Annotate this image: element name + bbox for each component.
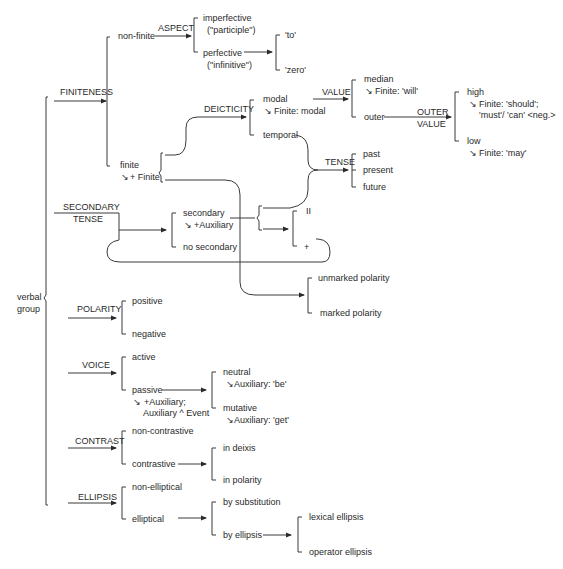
feature-secondary: secondary <box>183 208 225 218</box>
secondary-realization-arrow: ↘ <box>184 220 192 230</box>
perfective-bracket <box>276 35 280 70</box>
system-secondary-tense-1: SECONDARY <box>63 202 120 212</box>
feature-no-secondary: no secondary <box>183 242 238 252</box>
root-brace <box>44 97 48 505</box>
feature-in-polarity: in polarity <box>223 475 262 485</box>
feature-contrastive: contrastive <box>132 459 176 469</box>
feature-positive: positive <box>132 296 163 306</box>
finite-realization: + Finite <box>130 172 160 182</box>
feature-non-contrastive: non-contrastive <box>132 426 194 436</box>
neutral-realization: Auxiliary: 'be' <box>234 379 287 389</box>
system-contrast: CONTRAST <box>75 436 125 446</box>
feature-high: high <box>467 87 484 97</box>
median-realization-arrow: ↘ <box>365 86 373 96</box>
mutative-realization-arrow: ↘ <box>226 415 234 425</box>
system-voice: VOICE <box>82 360 110 370</box>
feature-recursion-plus: + <box>304 242 309 252</box>
voice-bracket <box>122 357 126 390</box>
feature-by-ellipsis: by ellipsis <box>223 530 263 540</box>
feature-neutral: neutral <box>223 367 251 377</box>
feature-active: active <box>132 352 156 362</box>
system-outer-value-2: VALUE <box>417 119 446 129</box>
system-network-diagram: verbal group FINITENESS non-finite finit… <box>0 0 563 569</box>
feature-non-elliptical: non-elliptical <box>132 482 182 492</box>
finite-to-polarity-curve <box>165 180 304 295</box>
high-realization-2: 'must'/ 'can' <neg.> <box>479 110 555 120</box>
system-value: VALUE <box>322 87 351 97</box>
recursion-bracket <box>293 211 297 246</box>
secondary-tense-bracket <box>172 213 176 247</box>
finite-realization-arrow: ↘ <box>121 172 129 182</box>
feature-by-substitution: by substitution <box>223 497 281 507</box>
aspect-bracket <box>194 18 198 52</box>
root-label-group: group <box>17 304 40 314</box>
elliptical-bracket <box>212 502 216 535</box>
passive-realization-1: +Auxiliary; <box>144 397 186 407</box>
feature-recursion-ii: II <box>306 206 311 216</box>
feature-zero: 'zero' <box>285 65 306 75</box>
feature-past: past <box>363 149 381 159</box>
low-realization: Finite: 'may' <box>479 148 527 158</box>
feature-perfective-gloss: ("infinitive") <box>207 60 252 70</box>
feature-mutative: mutative <box>223 403 257 413</box>
feature-in-deixis: in deixis <box>223 443 256 453</box>
outer-value-bracket <box>455 92 459 141</box>
feature-median: median <box>364 74 394 84</box>
passive-realization-2: Auxiliary ^ Event <box>143 408 210 418</box>
feature-future: future <box>363 182 386 192</box>
feature-non-finite: non-finite <box>118 31 155 41</box>
finite-polarity-bracket <box>308 278 312 313</box>
feature-low: low <box>467 136 481 146</box>
feature-perfective: perfective <box>203 48 242 58</box>
system-tense: TENSE <box>325 157 355 167</box>
system-ellipsis: ELLIPSIS <box>78 492 117 502</box>
modal-realization-arrow: ↘ <box>264 106 272 116</box>
tense-entry-brace <box>263 135 318 208</box>
mutative-realization: Auxiliary: 'get' <box>234 415 289 425</box>
feature-finite: finite <box>120 160 139 170</box>
median-realization: Finite: 'will' <box>375 86 418 96</box>
polarity-bracket <box>122 301 126 334</box>
feature-imperfective: imperfective <box>203 13 252 23</box>
feature-passive: passive <box>132 385 163 395</box>
feature-present: present <box>363 165 394 175</box>
high-realization-1: Finite: 'should'; <box>479 99 538 109</box>
feature-unmarked-polarity: unmarked polarity <box>318 273 390 283</box>
ellipsis-bracket <box>122 487 126 519</box>
feature-lexical-ellipsis: lexical ellipsis <box>309 512 364 522</box>
by-ellipsis-bracket <box>298 517 302 552</box>
system-polarity: POLARITY <box>77 304 122 314</box>
system-deicticity: DEICTICITY <box>204 104 254 114</box>
feature-negative: negative <box>132 329 166 339</box>
value-bracket <box>352 80 356 117</box>
high-realization-arrow: ↘ <box>469 99 477 109</box>
feature-elliptical: elliptical <box>132 514 164 524</box>
feature-outer: outer <box>364 112 385 122</box>
passive-realization-arrow: ↘ <box>133 397 141 407</box>
feature-temporal: temporal <box>263 130 298 140</box>
feature-imperfective-gloss: ("participle") <box>207 25 255 35</box>
contrastive-bracket <box>212 448 216 480</box>
neutral-realization-arrow: ↘ <box>226 379 234 389</box>
deicticity-entry-curve <box>165 117 246 155</box>
root-label-verbal: verbal <box>17 292 42 302</box>
passive-bracket <box>212 372 216 408</box>
system-finiteness: FINITENESS <box>60 87 113 97</box>
system-secondary-tense-2: TENSE <box>73 214 103 224</box>
system-outer-value-1: OUTER <box>417 107 449 117</box>
feature-modal: modal <box>263 94 288 104</box>
low-realization-arrow: ↘ <box>469 148 477 158</box>
secondary-brace <box>257 206 262 230</box>
secondary-realization: +Auxiliary <box>194 220 234 230</box>
system-aspect: ASPECT <box>158 23 195 33</box>
feature-to: 'to' <box>285 30 296 40</box>
finiteness-bracket <box>107 37 110 166</box>
feature-marked-polarity: marked polarity <box>320 308 382 318</box>
feature-operator-ellipsis: operator ellipsis <box>309 547 373 557</box>
modal-realization: Finite: modal <box>274 106 326 116</box>
